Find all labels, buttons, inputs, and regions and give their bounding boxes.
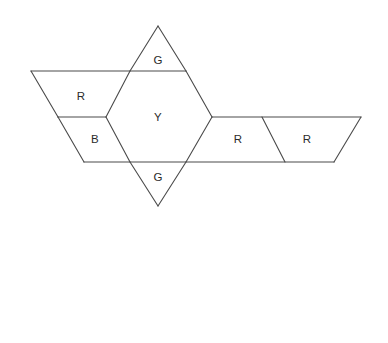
tile-label-lower-left-rhombus: B [91, 133, 99, 145]
tile-label-inner-right-rhombus: R [234, 133, 243, 145]
tile-faces-group [31, 26, 361, 206]
diagram-canvas: GRBYGRR [0, 0, 388, 343]
tile-label-upper-left-rhombus: R [77, 90, 86, 102]
tile-label-top-triangle: G [153, 54, 162, 66]
tile-label-outer-right-rhombus: R [303, 133, 312, 145]
tile-bottom-triangle [130, 162, 186, 206]
tessellation-figure: GRBYGRR [0, 0, 388, 343]
tile-label-center-hexagon: Y [154, 111, 162, 123]
tile-label-bottom-triangle: G [153, 171, 162, 183]
